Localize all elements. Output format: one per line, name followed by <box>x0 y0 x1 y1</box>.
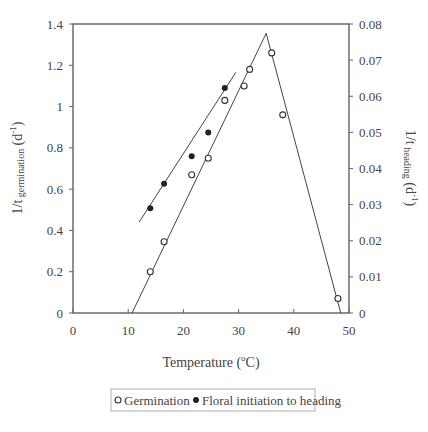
y-right-tick-label: 0.03 <box>359 197 382 212</box>
germination-point <box>222 97 228 103</box>
x-tick-label: 40 <box>287 323 300 338</box>
y-right-tick-label: 0.05 <box>359 125 382 140</box>
heading-point <box>147 205 153 211</box>
fit-line-germination-falling <box>266 33 341 313</box>
fit-line-heading-fit <box>139 72 236 222</box>
y-left-tick-label: 1 <box>57 99 64 114</box>
y-axis-right-label: 1/t heading (d-1) <box>402 130 420 207</box>
x-tick-label: 10 <box>122 323 135 338</box>
germination-point <box>247 66 253 72</box>
axes: 0102030405000.20.40.60.811.21.400.010.02… <box>47 17 383 339</box>
germination-point <box>189 172 195 178</box>
y-left-tick-label: 0.6 <box>47 182 64 197</box>
y-left-tick-label: 0.2 <box>47 264 63 279</box>
y-right-tick-label: 0.07 <box>359 53 382 68</box>
heading-point <box>205 129 211 135</box>
legend-label-germination: Germination <box>124 393 190 408</box>
legend-label-heading: Floral initiation to heading <box>202 393 342 408</box>
germination-point <box>161 239 167 245</box>
legend: Germination Floral initiation to heading <box>111 389 342 411</box>
x-tick-label: 0 <box>70 323 77 338</box>
x-tick-label: 30 <box>232 323 245 338</box>
heading-point <box>189 153 195 159</box>
x-tick-label: 20 <box>177 323 190 338</box>
y-right-tick-label: 0.04 <box>359 161 382 176</box>
germination-point <box>269 50 275 56</box>
germination-point <box>241 83 247 89</box>
legend-marker-heading <box>193 397 199 403</box>
legend-marker-germination <box>115 397 121 403</box>
y-right-tick-label: 0.08 <box>359 17 382 32</box>
y-right-tick-label: 0.06 <box>359 89 382 104</box>
y-left-tick-label: 0.8 <box>47 140 63 155</box>
heading-point <box>222 85 228 91</box>
germination-point <box>147 269 153 275</box>
y-left-tick-label: 1.2 <box>47 58 63 73</box>
y-right-tick-label: 0.01 <box>359 269 382 284</box>
x-axis-label: Temperature (oC) <box>162 353 260 371</box>
y-left-tick-label: 0 <box>57 306 64 321</box>
y-left-tick-label: 0.4 <box>47 223 64 238</box>
heading-point <box>161 181 167 187</box>
germination-point <box>280 112 286 118</box>
germination-point <box>205 155 211 161</box>
y-right-tick-label: 0.02 <box>359 233 382 248</box>
chart: 0102030405000.20.40.60.811.21.400.010.02… <box>0 0 428 432</box>
plot-frame <box>73 24 349 313</box>
fit-lines <box>132 33 341 313</box>
germination-point <box>335 296 341 302</box>
y-left-tick-label: 1.4 <box>47 17 64 32</box>
y-right-tick-label: 0 <box>359 306 366 321</box>
y-axis-left-label: 1/t germination (d-1) <box>8 121 26 214</box>
data-points <box>147 50 341 302</box>
x-tick-label: 50 <box>343 323 356 338</box>
